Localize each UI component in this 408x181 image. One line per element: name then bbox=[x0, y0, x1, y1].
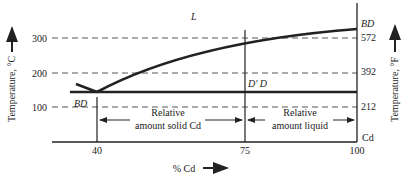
d-prime-d-label: D' D bbox=[247, 78, 268, 89]
liquid-label-line2: amount liquid bbox=[272, 120, 328, 131]
bd-label-left: BD bbox=[74, 98, 88, 109]
x-tick-75: 75 bbox=[240, 145, 250, 156]
bd-label-right: BD bbox=[361, 18, 375, 29]
left-tick-200: 200 bbox=[32, 68, 47, 79]
left-tick-100: 100 bbox=[32, 102, 47, 113]
right-tick-392: 392 bbox=[361, 66, 376, 77]
gridlines bbox=[52, 38, 357, 107]
phase-diagram: L 300 200 100 572 392 212 BD Cd BD D' D … bbox=[0, 0, 408, 181]
right-axis-label: Temperature, °F bbox=[389, 57, 400, 122]
solid-label-line2: amount solid Cd bbox=[135, 120, 201, 131]
solid-label-line1: Relative bbox=[151, 107, 185, 118]
right-tick-572: 572 bbox=[361, 32, 376, 43]
x-tick-40: 40 bbox=[92, 145, 102, 156]
liquid-region-label: L bbox=[190, 11, 197, 22]
x-axis-end-label: Cd bbox=[362, 132, 374, 143]
left-axis-label: Temperature, °C bbox=[6, 56, 17, 122]
x-axis-label: % Cd bbox=[173, 163, 196, 174]
liquid-label-line1: Relative bbox=[283, 107, 317, 118]
right-tick-212: 212 bbox=[361, 101, 376, 112]
left-tick-300: 300 bbox=[32, 33, 47, 44]
x-tick-100: 100 bbox=[350, 145, 365, 156]
